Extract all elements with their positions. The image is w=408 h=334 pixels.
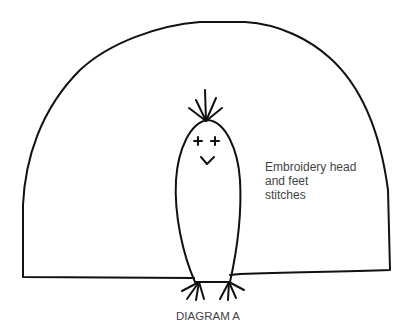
stitch-annotation: Embroidery head and feet stitches [265, 160, 385, 202]
eyes-cross-stitch-icon [194, 137, 219, 145]
diagram-caption: DIAGRAM A [0, 310, 408, 322]
annotation-line-2: and feet [265, 174, 385, 188]
mouth-icon [201, 157, 214, 164]
body-outline [176, 120, 241, 282]
left-foot-icon [182, 282, 204, 300]
dome-outline [23, 22, 390, 278]
head-tuft-icon [189, 90, 222, 121]
annotation-line-1: Embroidery head [265, 160, 385, 174]
annotation-line-3: stitches [265, 188, 385, 202]
right-foot-icon [220, 282, 244, 300]
